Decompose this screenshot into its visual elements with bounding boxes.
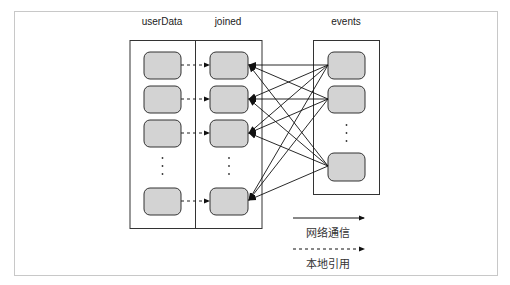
joined-nodes <box>210 52 248 215</box>
joined-ellipsis <box>228 157 230 175</box>
legend-network-label: 网络通信 <box>288 224 368 240</box>
userdata-nodes <box>144 52 181 215</box>
legend-local-label: 本地引用 <box>288 255 368 271</box>
events-nodes <box>328 52 365 181</box>
diagram-canvas <box>0 0 510 285</box>
events-ellipsis <box>346 124 348 142</box>
network-arrows <box>249 65 328 200</box>
userdata-ellipsis <box>162 157 164 175</box>
